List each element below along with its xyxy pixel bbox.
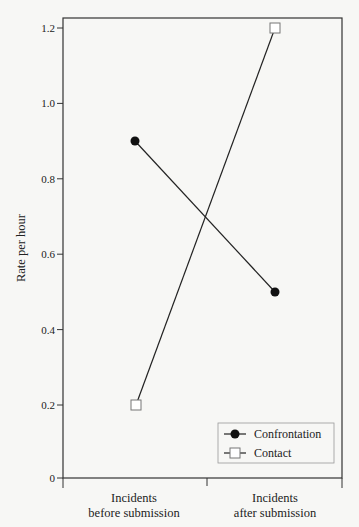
legend-label-contact: Contact xyxy=(254,446,292,460)
open-square-marker xyxy=(131,400,141,410)
xtick-label-before: Incidents xyxy=(111,491,157,505)
filled-circle-marker xyxy=(271,288,280,297)
ytick-label: 0.6 xyxy=(41,248,55,260)
legend: Confrontation Contact xyxy=(218,423,334,463)
x-axis: Incidents before submission Incidents af… xyxy=(63,478,342,520)
ytick-label: 1.0 xyxy=(41,97,55,109)
xtick-label-before-line2: before submission xyxy=(88,506,180,520)
plot-frame xyxy=(63,18,342,478)
xtick-label-after-line2: after submission xyxy=(234,506,317,520)
ytick-label: 0.2 xyxy=(41,399,55,411)
y-axis: 0 0.2 0.4 0.6 0.8 1.0 1.2 Rate per hour xyxy=(14,22,63,484)
xtick-label-after: Incidents xyxy=(252,491,298,505)
filled-circle-marker xyxy=(131,137,140,146)
ytick-label: 0.8 xyxy=(41,173,55,185)
contact-legend-icon xyxy=(230,448,240,458)
confrontation-legend-icon xyxy=(231,430,240,439)
y-axis-title: Rate per hour xyxy=(14,213,28,282)
ytick-label: 0.4 xyxy=(41,324,55,336)
ytick-label: 1.2 xyxy=(41,22,55,34)
ytick-label: 0 xyxy=(50,472,56,484)
series-contact xyxy=(131,23,280,410)
open-square-marker xyxy=(270,23,280,33)
line-chart: 0 0.2 0.4 0.6 0.8 1.0 1.2 Rate per hour … xyxy=(0,0,359,527)
legend-label-confrontation: Confrontation xyxy=(254,427,321,441)
